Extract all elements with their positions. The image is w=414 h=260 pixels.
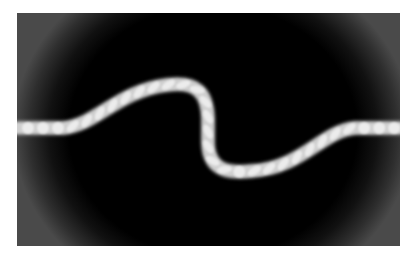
waveguide-element xyxy=(388,123,400,134)
waveguide-element xyxy=(233,166,245,177)
waveguide-element xyxy=(52,123,64,134)
waveguide-element xyxy=(37,123,49,134)
waveguide-element xyxy=(373,123,385,134)
s-curve-waveguide xyxy=(17,13,400,246)
waveguide-element xyxy=(22,123,34,134)
figure-frame xyxy=(17,13,400,246)
waveguide-element xyxy=(358,123,370,134)
